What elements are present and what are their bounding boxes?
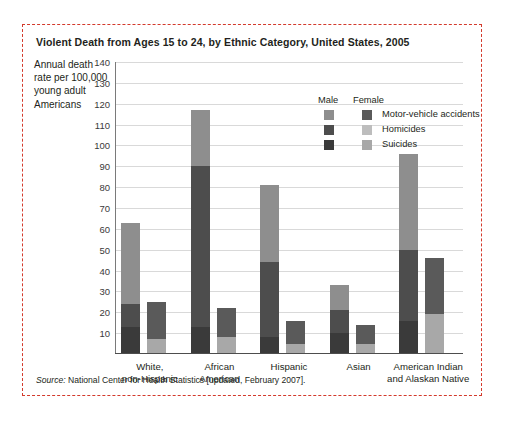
bar-segment — [191, 327, 210, 354]
bar-segment — [330, 310, 349, 333]
legend-header-female: Female — [353, 95, 384, 105]
bar-segment — [217, 308, 236, 337]
plot-area: 140130120110100908070605040302010 White,… — [115, 62, 463, 354]
y-axis-tick-label: 90 — [99, 161, 110, 172]
bar-group: White,non-Hispanic — [115, 62, 185, 354]
bar-segment — [217, 337, 236, 354]
bar-segment — [260, 262, 279, 337]
bar-segment — [286, 321, 305, 344]
source-label: Source: — [36, 375, 66, 385]
chart-figure: Violent Death from Ages 15 to 24, by Eth… — [22, 24, 482, 396]
legend-swatch-male — [324, 110, 334, 120]
bar-segment — [260, 337, 279, 354]
x-axis-line — [115, 353, 463, 354]
legend-swatch-female — [362, 140, 372, 150]
y-axis-tick-label: 30 — [99, 286, 110, 297]
bar-segment — [121, 327, 140, 354]
y-axis-tick-label: 70 — [99, 203, 110, 214]
bar-segment — [330, 333, 349, 354]
legend-swatch-male — [324, 140, 334, 150]
y-axis-tick-label: 40 — [99, 265, 110, 276]
y-axis-tick-label: 10 — [99, 328, 110, 339]
bar-segment — [356, 325, 375, 344]
y-axis-tick-label: 120 — [94, 98, 110, 109]
x-axis-category-label: Asian — [347, 361, 371, 373]
y-axis-tick-label: 140 — [94, 57, 110, 68]
bar-segment — [191, 110, 210, 166]
bar-group: American Indianand Alaskan Native — [393, 62, 463, 354]
y-axis-tick-label: 60 — [99, 223, 110, 234]
y-axis-tick-label: 50 — [99, 244, 110, 255]
legend-label: Homicides — [382, 124, 425, 134]
y-axis-tick-label: 80 — [99, 182, 110, 193]
bar-segment — [399, 321, 418, 354]
bar-segment — [260, 185, 279, 262]
bar-segment — [330, 285, 349, 310]
bar-segment — [425, 258, 444, 314]
y-axis-tick-label: 110 — [95, 119, 110, 130]
bar-group: AfricanAmerican — [185, 62, 255, 354]
y-axis-tick-label: 100 — [94, 140, 110, 151]
bar-group: Asian — [324, 62, 394, 354]
source-note: Source: National Center for Health Stati… — [36, 375, 305, 385]
x-axis-category-label: Hispanic — [271, 361, 308, 373]
bar-segment — [147, 302, 166, 340]
bar-segment — [425, 314, 444, 354]
legend-swatch-female — [362, 110, 372, 120]
bar-segment — [399, 250, 418, 321]
legend-label: Motor-vehicle accidents — [382, 109, 480, 119]
bar-segment — [399, 154, 418, 250]
bar-segment — [121, 223, 140, 304]
bar-segment — [121, 304, 140, 327]
bar-segment — [191, 166, 210, 327]
y-axis-tick-label: 130 — [94, 77, 110, 88]
legend-header-male: Male — [318, 95, 338, 105]
bar-group: Hispanic — [254, 62, 324, 354]
bar-groups: White,non-HispanicAfricanAmericanHispani… — [115, 62, 463, 354]
legend-swatch-female — [362, 125, 372, 135]
source-text: National Center for Health Statistics [u… — [68, 375, 305, 385]
legend-swatch-male — [324, 125, 334, 135]
chart-title: Violent Death from Ages 15 to 24, by Eth… — [36, 36, 410, 48]
legend-label: Suicides — [382, 139, 417, 149]
y-axis-tick-label: 20 — [99, 307, 110, 318]
x-axis-category-label: American Indianand Alaskan Native — [387, 361, 469, 386]
